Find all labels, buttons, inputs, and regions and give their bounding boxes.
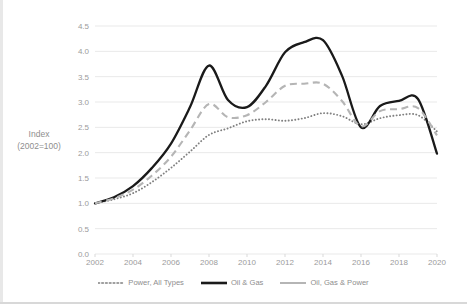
legend-item-oil-gas-and-power[interactable]: Oil, Gas & Power — [280, 278, 368, 287]
x-axis-tick-label: 2006 — [162, 258, 180, 267]
plot-area — [95, 26, 437, 254]
chart-legend: Power, All Types Oil & Gas Oil, Gas & Po… — [0, 278, 467, 287]
legend-label-power-all-types: Power, All Types — [128, 278, 184, 287]
legend-label-oil-gas-and-power: Oil, Gas & Power — [310, 278, 368, 287]
x-axis-tick-label: 2014 — [314, 258, 332, 267]
data-series-layer — [95, 26, 437, 254]
series-line-oil-gas-power — [95, 82, 437, 203]
y-axis-tick-label: 1.0 — [65, 199, 89, 208]
x-axis-tick-label: 2016 — [352, 258, 370, 267]
x-axis-tick-label: 2010 — [238, 258, 256, 267]
x-axis-tick-label: 2008 — [200, 258, 218, 267]
x-axis-tick-label: 2020 — [428, 258, 446, 267]
x-axis-tick-label: 2012 — [276, 258, 294, 267]
x-axis-tick-label: 2018 — [390, 258, 408, 267]
x-axis-tick-label: 2002 — [86, 258, 104, 267]
x-axis-tick-label: 2004 — [124, 258, 142, 267]
y-axis-title-line-2: (2002=100) — [8, 140, 70, 152]
legend-item-power-all-types[interactable]: Power, All Types — [98, 278, 184, 287]
y-axis-title-line-1: Index — [8, 128, 70, 140]
y-axis-title: Index (2002=100) — [8, 128, 70, 152]
series-line-power-all-types — [95, 113, 437, 203]
y-axis-tick-label: 3.5 — [65, 72, 89, 81]
y-axis-tick-label: 1.5 — [65, 174, 89, 183]
legend-swatch-solid-line — [201, 279, 227, 287]
series-line-oil-gas — [95, 38, 437, 204]
legend-swatch-dotted-line — [98, 279, 124, 287]
line-chart-figure: Index (2002=100) 4.54.03.53.02.52.01.51.… — [0, 0, 467, 304]
y-axis-tick-label: 2.5 — [65, 123, 89, 132]
y-axis-tick-label: 0.5 — [65, 224, 89, 233]
y-axis-tick-label: 4.0 — [65, 47, 89, 56]
page-edge-artifact-left — [0, 0, 3, 304]
y-axis-tick-label: 4.5 — [65, 22, 89, 31]
legend-label-oil-and-gas: Oil & Gas — [231, 278, 264, 287]
y-axis-tick-label: 3.0 — [65, 98, 89, 107]
y-axis-tick-label: 2.0 — [65, 148, 89, 157]
legend-item-oil-and-gas[interactable]: Oil & Gas — [201, 278, 264, 287]
legend-swatch-dashed-line — [280, 279, 306, 287]
